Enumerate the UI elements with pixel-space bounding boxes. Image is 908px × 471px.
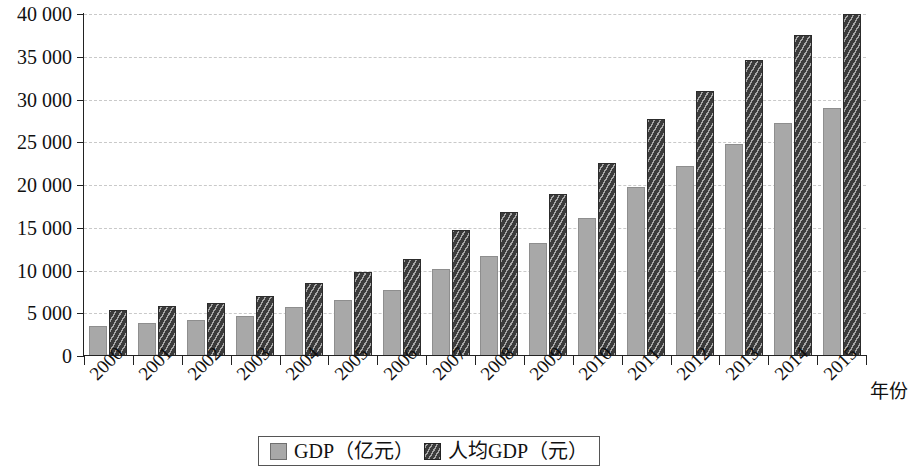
x-tick-mark <box>377 356 378 365</box>
y-tick-label: 35 000 <box>0 47 72 67</box>
y-tick-label: 15 000 <box>0 218 72 238</box>
legend-entry: GDP（亿元） <box>270 441 414 461</box>
bar-gdp <box>480 256 498 356</box>
bar-gdp <box>529 243 547 356</box>
bar-gdp <box>383 290 401 356</box>
bar-per-capita-gdp <box>696 91 714 356</box>
chart-legend: GDP（亿元）人均GDP（元） <box>258 436 600 466</box>
x-tick-mark <box>182 356 183 365</box>
bar-gdp <box>725 144 743 356</box>
y-tick-mark <box>77 142 84 143</box>
x-tick-mark <box>133 356 134 365</box>
y-tick-mark <box>77 185 84 186</box>
bar-per-capita-gdp <box>745 60 763 356</box>
legend-entry: 人均GDP（元） <box>424 441 588 461</box>
plot-area <box>84 14 866 356</box>
legend-swatch-per-capita-gdp-icon <box>424 443 441 460</box>
y-tick-label: 0 <box>0 346 72 366</box>
bar-gdp <box>432 269 450 356</box>
bar-gdp <box>578 218 596 356</box>
legend-swatch-gdp-icon <box>270 443 287 460</box>
x-tick-mark <box>622 356 623 365</box>
bar-per-capita-gdp <box>598 163 616 356</box>
y-tick-mark <box>77 100 84 101</box>
x-tick-mark <box>573 356 574 365</box>
y-tick-label: 40 000 <box>0 4 72 24</box>
bar-per-capita-gdp <box>843 14 861 356</box>
y-tick-label: 25 000 <box>0 132 72 152</box>
x-tick-mark <box>426 356 427 365</box>
x-tick-mark <box>280 356 281 365</box>
y-tick-mark <box>77 57 84 58</box>
bar-gdp <box>774 123 792 356</box>
bar-gdp <box>823 108 841 356</box>
y-tick-mark <box>77 313 84 314</box>
bar-per-capita-gdp <box>452 230 470 356</box>
x-tick-mark <box>524 356 525 365</box>
y-tick-label: 5 000 <box>0 303 72 323</box>
bar-gdp <box>627 187 645 356</box>
x-tick-mark <box>328 356 329 365</box>
bar-per-capita-gdp <box>549 194 567 356</box>
x-axis-title: 年份 <box>870 382 908 401</box>
y-tick-label: 30 000 <box>0 90 72 110</box>
x-tick-mark <box>475 356 476 365</box>
bar-per-capita-gdp <box>647 119 665 356</box>
x-tick-mark <box>817 356 818 365</box>
x-tick-mark <box>719 356 720 365</box>
x-tick-mark <box>866 356 867 365</box>
gridline <box>84 57 866 58</box>
bar-gdp <box>334 300 352 356</box>
legend-label: 人均GDP（元） <box>448 441 588 461</box>
gridline <box>84 14 866 15</box>
y-tick-mark <box>77 271 84 272</box>
bar-per-capita-gdp <box>794 35 812 356</box>
x-tick-mark <box>768 356 769 365</box>
y-tick-label: 20 000 <box>0 175 72 195</box>
y-tick-mark <box>77 356 84 357</box>
x-tick-mark <box>671 356 672 365</box>
x-tick-mark <box>84 356 85 365</box>
x-tick-mark <box>231 356 232 365</box>
y-tick-mark <box>77 14 84 15</box>
y-tick-label: 10 000 <box>0 261 72 281</box>
legend-label: GDP（亿元） <box>294 441 414 461</box>
y-tick-mark <box>77 228 84 229</box>
bar-per-capita-gdp <box>500 212 518 356</box>
bar-gdp <box>676 166 694 356</box>
